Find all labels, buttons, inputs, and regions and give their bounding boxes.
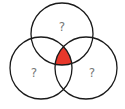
set-label-bottom-left: ? [31, 66, 37, 80]
set-label-top: ? [59, 20, 65, 34]
set-circle-bottom-left [10, 37, 72, 99]
set-circle-bottom-right [55, 37, 117, 99]
venn-svg: ? ? ? [0, 0, 125, 109]
venn-diagram: ? ? ? [0, 0, 125, 109]
set-label-bottom-right: ? [89, 66, 95, 80]
